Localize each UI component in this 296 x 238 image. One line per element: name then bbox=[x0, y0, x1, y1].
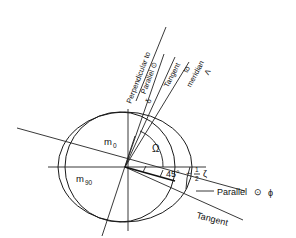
tick-mark-2 bbox=[160, 170, 163, 177]
m-zero-base: m bbox=[104, 136, 112, 147]
m-ninety-label: m 90 bbox=[76, 173, 93, 186]
perpendicular-to-parallel-label: Perpendicular to Parallel ⊙ bbox=[124, 50, 161, 108]
projection-geometry-diagram: Perpendicular to Parallel ⊙ Tangent to m… bbox=[0, 0, 296, 238]
tangent-to-meridian-label: Tangent to meridian Λ bbox=[162, 50, 215, 103]
m-zero-subscript: 0 bbox=[113, 142, 117, 149]
parallel-phi-text: Parallel bbox=[217, 187, 247, 197]
tangent-label: Tangent bbox=[196, 210, 230, 228]
parallel-phi-symbol: ⊙ bbox=[254, 187, 262, 197]
tangent-meridian-line4: Λ bbox=[202, 68, 212, 77]
parallel-phi-label: Parallel ⊙ ϕ bbox=[217, 187, 273, 198]
angle-45-minus: − bbox=[186, 168, 191, 178]
half-numerator: 1 bbox=[195, 166, 199, 173]
parallel-phi-line bbox=[17, 128, 245, 191]
m-ninety-base: m bbox=[76, 173, 84, 184]
zeta-label: ζ bbox=[203, 169, 207, 179]
tangent-meridian-line1: Tangent bbox=[162, 60, 183, 89]
parallel-phi-greek: ϕ bbox=[268, 188, 273, 198]
m-ninety-subscript: 90 bbox=[85, 179, 93, 186]
omega-label: Ω bbox=[152, 143, 160, 154]
half-denominator: 2 bbox=[195, 175, 199, 182]
m-zero-label: m 0 bbox=[104, 136, 117, 149]
angle-45-value: 45° bbox=[166, 169, 180, 179]
